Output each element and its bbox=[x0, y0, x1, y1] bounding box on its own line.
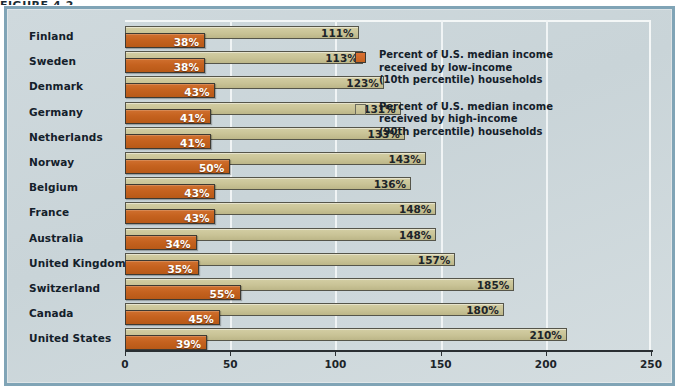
bar-value-low-income: 55% bbox=[210, 288, 235, 300]
figure-root: FIGURE 4.2 Finland111%38%Sweden113%38%De… bbox=[0, 0, 679, 390]
bar-value-high-income: 136% bbox=[374, 178, 406, 190]
bar-value-low-income: 39% bbox=[176, 338, 201, 350]
category-label: Germany bbox=[29, 106, 83, 118]
category-label: Australia bbox=[29, 232, 83, 244]
x-axis-tick bbox=[230, 352, 231, 356]
x-axis-tick-label: 0 bbox=[121, 358, 128, 370]
x-axis-tick-label: 100 bbox=[324, 358, 346, 370]
legend-label-high-line-1: Percent of U.S. median income bbox=[379, 101, 555, 114]
bar-value-high-income: 148% bbox=[399, 203, 431, 215]
bar-row: Finland111%38% bbox=[125, 25, 651, 50]
bar-value-high-income: 113% bbox=[325, 52, 357, 64]
x-axis-tick-label: 200 bbox=[535, 358, 557, 370]
plot-top-border bbox=[125, 20, 651, 22]
x-axis-tick-label: 50 bbox=[223, 358, 238, 370]
legend-label-high-line-3: (90th percentile) households bbox=[379, 126, 555, 139]
legend-label-low-line-2: received by low-income bbox=[379, 62, 555, 75]
legend-label-low-line-3: (10th percentile) households bbox=[379, 74, 555, 87]
bar-value-low-income: 38% bbox=[174, 36, 199, 48]
bar-value-low-income: 41% bbox=[180, 112, 205, 124]
bar-value-high-income: 185% bbox=[477, 279, 509, 291]
bar-value-low-income: 43% bbox=[184, 86, 209, 98]
category-label: Sweden bbox=[29, 55, 76, 67]
bar-value-low-income: 38% bbox=[174, 61, 199, 73]
x-axis-tick-label: 150 bbox=[430, 358, 452, 370]
category-label: Netherlands bbox=[29, 131, 103, 143]
bar-value-low-income: 43% bbox=[184, 212, 209, 224]
bar-value-high-income: 111% bbox=[321, 27, 353, 39]
category-label: Norway bbox=[29, 156, 74, 168]
bar-value-low-income: 34% bbox=[165, 238, 190, 250]
x-axis-line bbox=[125, 350, 653, 352]
bar-row: Norway143%50% bbox=[125, 151, 651, 176]
bar-value-high-income: 210% bbox=[529, 329, 561, 341]
bar-value-high-income: 143% bbox=[388, 153, 420, 165]
bar-row: United Kingdom157%35% bbox=[125, 252, 651, 277]
bar-row: Canada180%45% bbox=[125, 302, 651, 327]
category-label: Belgium bbox=[29, 181, 78, 193]
bar-row: Switzerland185%55% bbox=[125, 277, 651, 302]
x-axis-tick bbox=[651, 352, 652, 356]
bar-value-low-income: 45% bbox=[189, 313, 214, 325]
legend-entry-low-income: Percent of U.S. median income received b… bbox=[355, 49, 555, 87]
bar-value-high-income: 148% bbox=[399, 229, 431, 241]
legend-label-high-line-2: received by high-income bbox=[379, 113, 555, 126]
bar-value-low-income: 35% bbox=[167, 263, 192, 275]
category-label: Finland bbox=[29, 30, 74, 42]
bar-value-low-income: 50% bbox=[199, 162, 224, 174]
bar-row: United States210%39% bbox=[125, 327, 651, 352]
category-label: Switzerland bbox=[29, 282, 100, 294]
bar-value-high-income: 180% bbox=[466, 304, 498, 316]
category-label: United States bbox=[29, 332, 111, 344]
bar-row: France148%43% bbox=[125, 201, 651, 226]
x-axis-tick bbox=[546, 352, 547, 356]
x-axis-tick bbox=[335, 352, 336, 356]
chart-legend: Percent of U.S. median income received b… bbox=[355, 49, 555, 152]
x-axis-tick-label: 250 bbox=[640, 358, 662, 370]
legend-label-low-income: Percent of U.S. median income received b… bbox=[379, 49, 555, 87]
bar-row: Belgium136%43% bbox=[125, 176, 651, 201]
category-label: Canada bbox=[29, 307, 74, 319]
figure-caption: FIGURE 4.2 bbox=[0, 0, 120, 5]
x-axis-tick bbox=[441, 352, 442, 356]
legend-label-high-income: Percent of U.S. median income received b… bbox=[379, 101, 555, 139]
category-label: Denmark bbox=[29, 80, 83, 92]
legend-entry-high-income: Percent of U.S. median income received b… bbox=[355, 101, 555, 139]
chart-panel: Finland111%38%Sweden113%38%Denmark123%43… bbox=[4, 6, 675, 386]
bar-value-low-income: 43% bbox=[184, 187, 209, 199]
low-income-swatch bbox=[355, 52, 366, 63]
high-income-swatch bbox=[355, 104, 366, 115]
legend-label-low-line-1: Percent of U.S. median income bbox=[379, 49, 555, 62]
bar-value-low-income: 41% bbox=[180, 137, 205, 149]
category-label: France bbox=[29, 206, 69, 218]
x-axis-tick bbox=[125, 352, 126, 356]
bar-row: Australia148%34% bbox=[125, 227, 651, 252]
bar-value-high-income: 157% bbox=[418, 254, 450, 266]
category-label: United Kingdom bbox=[29, 257, 126, 269]
